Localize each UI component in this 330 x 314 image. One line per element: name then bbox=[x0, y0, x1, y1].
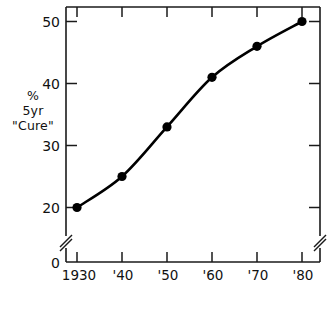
x-tick-label-1940: '40 bbox=[113, 267, 134, 283]
x-tick-label-1960: '60 bbox=[203, 267, 224, 283]
data-series-line bbox=[77, 22, 302, 208]
data-point-1950 bbox=[162, 122, 171, 131]
data-series-markers bbox=[72, 17, 306, 212]
x-axis-ticks bbox=[77, 7, 302, 262]
y-axis-label-line-1: % bbox=[2, 88, 64, 103]
data-point-1940 bbox=[117, 172, 126, 181]
y-axis-ticks bbox=[66, 22, 320, 208]
y-tick-label-30: 30 bbox=[42, 138, 60, 154]
y-tick-label-50: 50 bbox=[42, 14, 60, 30]
y-axis-label-line-2: 5yr bbox=[2, 103, 64, 118]
plot-frame bbox=[66, 7, 320, 262]
chart-figure: % 5yr "Cure" bbox=[0, 0, 330, 314]
x-tick-label-1970: '70 bbox=[248, 267, 269, 283]
x-tick-label-1950: '50 bbox=[158, 267, 179, 283]
axis-break-marks bbox=[60, 235, 326, 251]
data-point-1930 bbox=[72, 203, 81, 212]
data-point-1970 bbox=[252, 42, 261, 51]
x-tick-label-1930: 1930 bbox=[62, 267, 96, 283]
line-chart-plot: 50 40 30 20 0 1930 '40 '50 '60 '70 '80 bbox=[0, 0, 330, 314]
data-point-1980 bbox=[297, 17, 306, 26]
y-tick-label-zero: 0 bbox=[51, 255, 60, 271]
y-axis-label-line-3: "Cure" bbox=[2, 118, 64, 133]
y-axis-label: % 5yr "Cure" bbox=[2, 88, 64, 133]
data-point-1960 bbox=[207, 73, 216, 82]
x-tick-label-1980: '80 bbox=[293, 267, 314, 283]
y-tick-label-20: 20 bbox=[42, 200, 60, 216]
